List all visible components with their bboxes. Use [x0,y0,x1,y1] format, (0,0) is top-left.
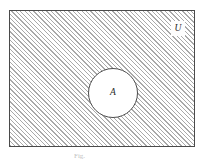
universal-set-region: A [9,10,195,147]
set-a-label: A [89,69,137,117]
universal-set-label: U [175,24,182,34]
set-a-region: A [88,68,138,118]
venn-diagram-figure: A U Fig. [0,0,205,161]
figure-caption: Fig. [74,152,132,161]
universal-set-label-box: U [171,21,185,36]
